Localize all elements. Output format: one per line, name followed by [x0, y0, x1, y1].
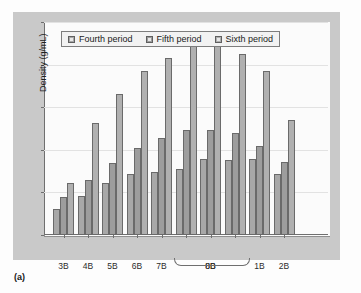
- bar: [67, 183, 74, 235]
- bar: [116, 94, 123, 235]
- bar: [127, 174, 134, 235]
- legend-swatch-icon: [215, 36, 222, 43]
- chart-legend: Fourth periodFifth periodSixth period: [61, 31, 280, 47]
- bar: [274, 174, 281, 235]
- bar: [249, 159, 256, 235]
- y-axis-tick-mark: [41, 235, 44, 236]
- bar: [256, 146, 263, 235]
- legend-swatch-icon: [146, 36, 153, 43]
- bar: [288, 120, 295, 235]
- bar: [200, 159, 207, 235]
- legend-label: Fifth period: [157, 34, 202, 44]
- bar: [190, 44, 197, 235]
- x-axis-tick-mark: [211, 235, 212, 238]
- x-axis-tick-mark: [137, 235, 138, 238]
- bar: [151, 172, 158, 235]
- bars-group: [44, 22, 328, 235]
- bar: [165, 58, 172, 235]
- bar: [85, 180, 92, 235]
- y-axis-label: Density (g/mL): [38, 33, 48, 92]
- bar: [207, 130, 214, 235]
- legend-item: Fifth period: [146, 34, 202, 44]
- bar: [183, 130, 190, 235]
- bar: [60, 197, 67, 235]
- figure-caption: (a): [14, 272, 25, 282]
- x-axis-tick-mark: [260, 235, 261, 238]
- bar: [92, 123, 99, 235]
- bar: [263, 71, 270, 235]
- x-axis-tick-mark: [284, 235, 285, 238]
- bar: [53, 209, 60, 235]
- group-brace: [174, 258, 250, 266]
- bar: [102, 183, 109, 235]
- legend-label: Sixth period: [226, 34, 274, 44]
- x-axis-tick-mark: [64, 235, 65, 238]
- x-axis-tick-mark: [113, 235, 114, 238]
- bar: [214, 44, 221, 235]
- bar: [176, 169, 183, 235]
- figure-container: 0510152025 3B4B5B6B7B8B1B2B8B Density (g…: [0, 0, 361, 293]
- bar: [158, 138, 165, 235]
- bar: [78, 196, 85, 235]
- x-axis-tick-mark: [88, 235, 89, 238]
- legend-item: Fourth period: [68, 34, 133, 44]
- x-axis-tick-mark: [162, 235, 163, 238]
- bar: [281, 162, 288, 235]
- x-axis-tick-mark: [186, 235, 187, 238]
- legend-swatch-icon: [68, 36, 75, 43]
- bar: [232, 133, 239, 235]
- bar: [239, 54, 246, 235]
- bar: [109, 163, 116, 235]
- bar: [225, 160, 232, 235]
- legend-label: Fourth period: [79, 34, 133, 44]
- x-axis-tick-label: 2B: [264, 261, 304, 271]
- bar: [141, 71, 148, 235]
- chart-plot-area: 0510152025 3B4B5B6B7B8B1B2B8B Density (g…: [44, 22, 328, 235]
- x-axis-tick-mark: [235, 235, 236, 238]
- legend-item: Sixth period: [215, 34, 274, 44]
- bar: [134, 148, 141, 235]
